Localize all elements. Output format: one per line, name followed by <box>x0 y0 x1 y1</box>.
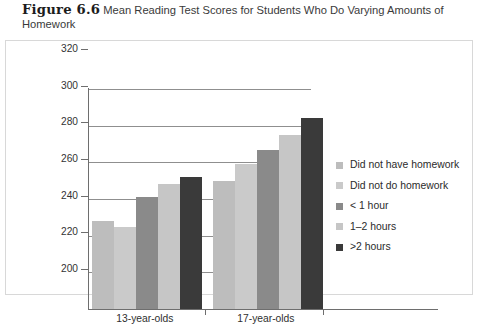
bar <box>114 227 136 310</box>
legend-label: Did not do homework <box>350 180 448 192</box>
x-tick-label-1: 13-year-olds <box>116 313 173 324</box>
legend-swatch-icon <box>336 203 343 210</box>
y-tick-240 <box>81 196 88 197</box>
y-tick-label-260: 260 <box>38 153 78 164</box>
x-tick-2 <box>323 309 324 315</box>
chart-frame: Reading Test Score 200220240260280300320… <box>5 40 473 295</box>
y-tick-label-200: 200 <box>38 263 78 274</box>
chart-legend: Did not have homeworkDid not do homework… <box>336 159 476 262</box>
y-tick-300 <box>81 86 88 87</box>
legend-item: Did not have homework <box>336 159 476 171</box>
y-tick-320 <box>81 49 88 50</box>
y-tick-220 <box>81 232 88 233</box>
legend-item: >2 hours <box>336 241 476 253</box>
y-tick-260 <box>81 159 88 160</box>
x-axis-labels: 13-year-olds17-year-olds <box>88 313 438 328</box>
x-tick-label-2: 17-year-olds <box>237 313 294 324</box>
legend-item: < 1 hour <box>336 200 476 212</box>
x-axis-line <box>88 309 438 310</box>
y-tick-label-240: 240 <box>38 190 78 201</box>
bar <box>158 184 180 309</box>
legend-swatch-icon <box>336 244 343 251</box>
y-tick-200 <box>81 269 88 270</box>
legend-label: >2 hours <box>350 241 391 253</box>
legend-swatch-icon <box>336 182 343 189</box>
bar <box>136 197 158 309</box>
y-tick-label-280: 280 <box>38 116 78 127</box>
legend-label: Did not have homework <box>350 159 459 171</box>
legend-label: < 1 hour <box>350 200 388 212</box>
bar <box>301 118 323 309</box>
y-tick-label-300: 300 <box>38 80 78 91</box>
y-tick-label-320: 320 <box>38 43 78 54</box>
x-tick-1 <box>205 309 206 315</box>
legend-item: Did not do homework <box>336 180 476 192</box>
bar <box>235 164 257 309</box>
figure-number: Figure 6.6 <box>22 2 100 17</box>
legend-item: 1–2 hours <box>336 221 476 233</box>
y-tick-280 <box>81 122 88 123</box>
y-tick-label-220: 220 <box>38 226 78 237</box>
bar <box>279 135 301 309</box>
bar <box>92 221 114 309</box>
legend-swatch-icon <box>336 223 343 230</box>
bar <box>257 150 279 310</box>
bar <box>213 181 235 309</box>
figure-caption: Figure 6.6 Mean Reading Test Scores for … <box>22 3 466 31</box>
legend-label: 1–2 hours <box>350 221 396 233</box>
y-axis-labels: 200220240260280300320 <box>34 41 78 328</box>
legend-swatch-icon <box>336 162 343 169</box>
bar <box>180 177 202 309</box>
